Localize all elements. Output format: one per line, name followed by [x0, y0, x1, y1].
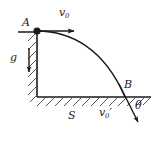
projectile-motion-figure: A v0 g B S v0′ θ — [0, 0, 157, 143]
label-angle: θ — [135, 100, 142, 111]
label-final-velocity-prime: ′ — [110, 106, 112, 118]
label-final-velocity: v0′ — [99, 107, 112, 118]
point-a-marker — [33, 27, 40, 34]
ground-hatching — [37, 97, 151, 106]
label-initial-velocity: v0 — [59, 7, 70, 18]
trajectory-curve — [37, 31, 125, 97]
label-distance: S — [68, 110, 76, 121]
label-point-b: B — [124, 79, 132, 90]
label-point-a: A — [22, 17, 30, 28]
label-gravity: g — [10, 52, 17, 63]
label-initial-velocity-subscript: 0 — [65, 12, 69, 20]
label-final-velocity-subscript: 0 — [105, 112, 109, 120]
